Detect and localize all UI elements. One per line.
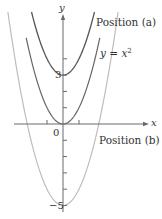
parabola-chart [0,0,162,219]
position-a-label: Position (a) [96,17,156,28]
x-axis-label: x [151,118,157,128]
origin-tick-label: 0 [53,128,59,138]
y-tick-label-neg5: −5 [49,201,64,211]
equation-label: y = x2 [100,48,132,59]
equation-exponent: 2 [127,47,131,55]
y-tick-label-3: 3 [55,70,61,80]
equation-base: y = x [100,47,127,59]
y-axis-arrow-icon [61,14,65,20]
position-b-label: Position (b) [99,135,160,146]
y-axis-label: y [59,3,65,13]
x-axis-arrow-icon [143,122,149,126]
